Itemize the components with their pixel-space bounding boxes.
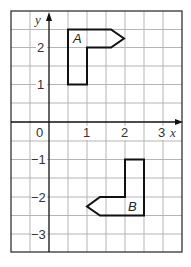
y-tick-1: 1: [37, 77, 44, 92]
y-tick-neg3: −3: [31, 227, 46, 242]
y-axis-label: y: [33, 12, 41, 27]
x-tick-2: 2: [121, 125, 128, 140]
y-tick-neg1: −1: [31, 152, 46, 167]
y-axis-arrow-icon: [46, 12, 52, 21]
x-axis-label: x: [169, 125, 176, 140]
shape-b-label: B: [128, 199, 137, 214]
origin-label: 0: [36, 125, 43, 140]
x-tick-labels: 0 1 2 3 x: [34, 125, 180, 140]
y-tick-neg2: −2: [31, 190, 46, 205]
coordinate-grid-diagram: 0 1 2 3 x y 2 1 −1 −2 −3 A B: [0, 0, 191, 267]
x-tick-1: 1: [83, 125, 90, 140]
x-tick-3: 3: [158, 125, 165, 140]
shape-a-label: A: [72, 31, 82, 46]
y-tick-2: 2: [37, 40, 44, 55]
